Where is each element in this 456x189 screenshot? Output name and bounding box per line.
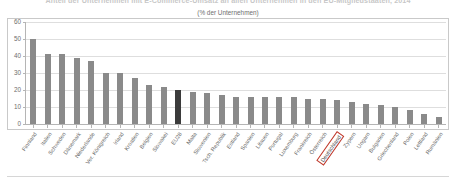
x-axis-tick-marks: [26, 125, 446, 128]
bar-column: [171, 22, 185, 124]
bar-column: [403, 22, 417, 124]
bar-column: [388, 22, 402, 124]
x-label-slot: Kroatien: [127, 131, 141, 189]
chart-screenshot: Anteil der Unternehmen mit E-Commerce-Um…: [0, 0, 456, 189]
x-label-slot: Rumänien: [432, 131, 446, 189]
bar: [262, 97, 268, 124]
y-axis-tick-label: 30: [0, 70, 21, 76]
bar: [190, 92, 196, 124]
bar-column: [142, 22, 156, 124]
x-label-slot: Portugal: [272, 131, 286, 189]
bar: [320, 99, 326, 125]
x-label-slot: Finnland: [26, 131, 40, 189]
x-label-slot: Griechenland: [388, 131, 402, 189]
x-label-slot: Malta: [185, 131, 199, 189]
bar: [276, 97, 282, 124]
bar-column: [229, 22, 243, 124]
x-axis-tick-mark: [26, 125, 40, 128]
x-label-slot: EU28: [171, 131, 185, 189]
bar: [45, 54, 51, 124]
x-axis-tick-mark: [40, 125, 54, 128]
y-axis-tick-label: 10: [0, 104, 21, 110]
bar: [248, 97, 254, 124]
x-axis-tick-mark: [113, 125, 127, 128]
x-label-slot: Deutschland: [330, 131, 344, 189]
x-axis-tick-mark: [258, 125, 272, 128]
x-label-slot: Irland: [113, 131, 127, 189]
x-axis-category-label: Malta: [185, 131, 198, 146]
bar: [291, 97, 297, 124]
x-axis-tick-mark: [272, 125, 286, 128]
bar-column: [316, 22, 330, 124]
bar: [132, 78, 138, 124]
bar-column: [287, 22, 301, 124]
bar-column: [214, 22, 228, 124]
x-label-slot: Dänemark: [69, 131, 83, 189]
x-label-slot: Luxemburg: [287, 131, 301, 189]
x-axis-tick-mark: [156, 125, 170, 128]
x-axis-tick-mark: [374, 125, 388, 128]
bar-column: [272, 22, 286, 124]
x-axis-tick-mark: [359, 125, 373, 128]
x-axis-tick-mark: [301, 125, 315, 128]
x-label-slot: Ungarn: [359, 131, 373, 189]
bar: [436, 117, 442, 124]
bar: [421, 114, 427, 124]
x-axis-tick-mark: [98, 125, 112, 128]
x-axis-tick-mark: [432, 125, 446, 128]
bar-column: [40, 22, 54, 124]
bar-column: [113, 22, 127, 124]
chart-title: Anteil der Unternehmen mit E-Commerce-Um…: [0, 0, 456, 5]
bar-column: [330, 22, 344, 124]
x-axis-category-label: Irland: [112, 131, 125, 146]
y-axis-tick-label: 20: [0, 87, 21, 93]
x-label-slot: Tsch. Republik: [214, 131, 228, 189]
x-label-slot: Litauen: [258, 131, 272, 189]
x-axis-category-label: Polen: [402, 131, 415, 146]
bar-column: [185, 22, 199, 124]
x-label-slot: Slowakei: [156, 131, 170, 189]
bar: [146, 85, 152, 124]
bar: [363, 104, 369, 124]
bar: [30, 39, 36, 124]
bar-column: [417, 22, 431, 124]
x-axis-category-label: EU28: [170, 131, 183, 146]
chart-title-block: Anteil der Unternehmen mit E-Commerce-Um…: [0, 0, 456, 17]
x-axis-tick-mark: [287, 125, 301, 128]
bar: [407, 110, 413, 124]
x-axis-tick-mark: [127, 125, 141, 128]
bar-column: [359, 22, 373, 124]
x-label-slot: Lettland: [417, 131, 431, 189]
bar-column: [156, 22, 170, 124]
bar-column: [345, 22, 359, 124]
y-axis-tick-label: 0: [0, 121, 21, 127]
bar: [59, 54, 65, 124]
bar: [392, 107, 398, 124]
bar: [378, 105, 384, 124]
x-axis-tick-mark: [200, 125, 214, 128]
bar-column: [127, 22, 141, 124]
bar-column: [200, 22, 214, 124]
bar: [175, 90, 181, 124]
bar-column: [55, 22, 69, 124]
x-axis-tick-mark: [243, 125, 257, 128]
bar-column: [84, 22, 98, 124]
x-label-slot: Estland: [229, 131, 243, 189]
x-axis-tick-mark: [185, 125, 199, 128]
x-axis-tick-mark: [55, 125, 69, 128]
y-axis-tick-label: 40: [0, 53, 21, 59]
bar: [305, 99, 311, 125]
x-label-slot: Polen: [403, 131, 417, 189]
bar-column: [98, 22, 112, 124]
bar: [349, 102, 355, 124]
bar-column: [258, 22, 272, 124]
x-axis-tick-mark: [229, 125, 243, 128]
x-axis-tick-mark: [214, 125, 228, 128]
x-label-slot: Spanien: [243, 131, 257, 189]
x-label-slot: Zypern: [345, 131, 359, 189]
bar-column: [243, 22, 257, 124]
x-axis-tick-mark: [316, 125, 330, 128]
bar: [74, 58, 80, 124]
bar-column: [26, 22, 40, 124]
chart-subtitle: (% der Unternehmen): [0, 8, 456, 17]
